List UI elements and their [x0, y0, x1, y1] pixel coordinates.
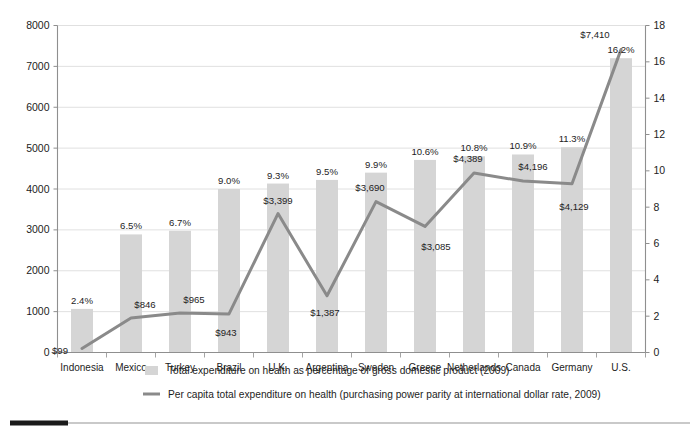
- bar-value-label: 10.8%: [460, 142, 488, 153]
- line-value-label: $1,387: [310, 307, 339, 318]
- right-axis-tick-label: 6: [654, 237, 660, 249]
- bar: [316, 180, 338, 353]
- line-value-label: $846: [134, 299, 155, 310]
- bar-value-label: 9.9%: [365, 159, 387, 170]
- bar: [463, 156, 485, 352]
- legend-bar-swatch: [145, 366, 158, 375]
- left-axis-tick-label: 7000: [26, 60, 50, 72]
- line-value-label: $3,085: [421, 241, 450, 252]
- line-value-label: $99: [52, 345, 68, 356]
- left-axis-tick-label: 4000: [26, 183, 50, 195]
- bar-value-label: 10.9%: [509, 140, 537, 151]
- x-axis: [52, 353, 646, 358]
- bar: [610, 58, 632, 352]
- line-value-label: $4,196: [518, 161, 547, 172]
- bar: [120, 234, 142, 352]
- bar: [267, 184, 289, 353]
- left-axis-tick-label: 6000: [26, 101, 50, 113]
- line-path: [82, 50, 621, 349]
- right-axis-tick-label: 0: [654, 346, 660, 358]
- bar-value-label: 6.5%: [120, 220, 142, 231]
- combo-chart: 0100020003000400050006000700080000246810…: [0, 0, 693, 432]
- right-axis-tick-label: 10: [654, 164, 666, 176]
- right-axis-tick-label: 12: [654, 128, 666, 140]
- right-axis-tick-label: 16: [654, 55, 666, 67]
- bar: [365, 173, 387, 353]
- left-axis-tick-label: 0: [44, 346, 50, 358]
- left-axis-tick-label: 1000: [26, 305, 50, 317]
- category-label: U.S.: [611, 362, 630, 373]
- bar-value-label: 16.2%: [607, 44, 635, 55]
- left-axis-tick-label: 5000: [26, 142, 50, 154]
- line-value-label: $7,410: [580, 29, 609, 40]
- line-series: [82, 50, 621, 349]
- line-value-label: $3,399: [263, 195, 292, 206]
- bar-value-label: 9.0%: [218, 175, 240, 186]
- bar: [71, 309, 93, 353]
- bar: [169, 231, 191, 353]
- bar-value-label: 6.7%: [169, 217, 191, 228]
- right-axis-tick-label: 4: [654, 273, 660, 285]
- line-value-label: $965: [183, 294, 204, 305]
- line-value-label: $4,389: [453, 153, 482, 164]
- line-value-label: $3,690: [355, 182, 384, 193]
- line-value-label: $4,129: [559, 201, 588, 212]
- right-axis-tick-label: 8: [654, 201, 660, 213]
- left-axis-tick-label: 2000: [26, 264, 50, 276]
- bar-value-label: 9.3%: [267, 170, 289, 181]
- chart-container: 0100020003000400050006000700080000246810…: [0, 0, 693, 432]
- bar: [561, 147, 583, 352]
- legend-label-bar: Total expenditure on health as percentag…: [168, 365, 510, 376]
- left-axis-tick-label: 8000: [26, 19, 50, 31]
- bar-value-label: 9.5%: [316, 166, 338, 177]
- legend-label-line: Per capita total expenditure on health (…: [168, 389, 601, 400]
- right-axis-tick-label: 2: [654, 310, 660, 322]
- category-label: Indonesia: [60, 362, 104, 373]
- legend: [143, 366, 160, 394]
- bar-value-label: 10.6%: [411, 146, 439, 157]
- category-label: Canada: [505, 362, 540, 373]
- category-label: Mexico: [115, 362, 147, 373]
- bar-value-label: 11.3%: [559, 133, 586, 144]
- category-label: Germany: [551, 362, 592, 373]
- right-axis: [646, 26, 650, 353]
- left-axis: [54, 26, 58, 353]
- bar: [512, 154, 534, 352]
- bar: [414, 160, 436, 353]
- line-value-label: $943: [215, 327, 236, 338]
- right-axis-tick-label: 18: [654, 19, 666, 31]
- bar-value-label: 2.4%: [71, 295, 93, 306]
- left-axis-tick-label: 3000: [26, 223, 50, 235]
- right-axis-tick-label: 14: [654, 92, 666, 104]
